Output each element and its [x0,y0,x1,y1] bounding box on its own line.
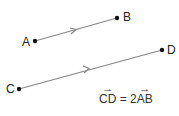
vector-ab-symbol: AB [137,92,153,106]
point-d [160,48,164,52]
coefficient: 2 [130,92,137,106]
point-a [33,39,37,43]
vector-cd-symbol: CD [99,92,116,106]
formula: CD = 2AB [99,92,153,106]
label-d: D [167,43,176,57]
label-a: A [22,35,30,49]
label-c: C [6,82,15,96]
label-b: B [123,10,131,24]
vector-diagram: A B C D CD = 2AB [0,0,179,116]
point-c [17,87,21,91]
equals-sign: = [120,92,127,106]
point-b [115,16,119,20]
arrowhead-icon [83,66,89,73]
vector-ab [35,18,117,41]
